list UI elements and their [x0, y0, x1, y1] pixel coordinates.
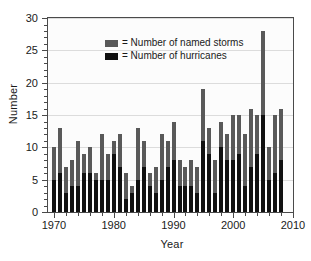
- x-tick-minor: [138, 213, 139, 216]
- bar-segment-named-storms: [207, 128, 211, 154]
- bar-segment-hurricanes: [58, 173, 62, 212]
- bar-segment-named-storms: [279, 109, 283, 161]
- x-tick-minor: [221, 213, 222, 216]
- bar-1993: [189, 160, 193, 212]
- bar-segment-named-storms: [58, 128, 62, 173]
- legend-swatch-named-storms: [105, 40, 118, 47]
- x-tick-major: [54, 213, 55, 218]
- x-tick-label-1990: 1990: [154, 220, 194, 231]
- bar-segment-named-storms: [243, 134, 247, 186]
- bar-1996: [207, 128, 211, 212]
- bar-1999: [225, 134, 229, 212]
- bar-segment-named-storms: [219, 122, 223, 148]
- bar-segment-named-storms: [64, 167, 68, 193]
- bar-1998: [219, 122, 223, 213]
- bar-segment-named-storms: [189, 160, 193, 186]
- bar-segment-hurricanes: [160, 180, 164, 212]
- x-tick-minor: [245, 213, 246, 216]
- legend-item-named-storms: = Number of named storms: [105, 38, 243, 48]
- bar-segment-named-storms: [267, 147, 271, 179]
- x-tick-minor: [162, 213, 163, 216]
- bar-segment-hurricanes: [243, 186, 247, 212]
- bar-segment-hurricanes: [118, 167, 122, 212]
- bar-segment-named-storms: [255, 115, 259, 154]
- bar-segment-hurricanes: [100, 180, 104, 212]
- bar-segment-named-storms: [88, 147, 92, 173]
- legend-label-named-storms: = Number of named storms: [122, 38, 243, 48]
- bar-1976: [88, 147, 92, 212]
- x-tick-major: [233, 213, 234, 218]
- bar-segment-named-storms: [201, 89, 205, 141]
- legend-swatch-hurricanes: [105, 53, 118, 60]
- x-tick-major: [293, 213, 294, 218]
- bar-segment-hurricanes: [213, 193, 217, 212]
- bar-1992: [183, 167, 187, 212]
- y-tick-label-30: 30: [26, 13, 38, 24]
- bar-segment-hurricanes: [267, 180, 271, 212]
- bar-1984: [136, 128, 140, 212]
- bar-segment-hurricanes: [178, 186, 182, 212]
- bar-segment-hurricanes: [273, 173, 277, 212]
- x-tick-minor: [185, 213, 186, 216]
- x-tick-minor: [269, 213, 270, 216]
- bar-segment-hurricanes: [195, 193, 199, 212]
- bar-segment-named-storms: [100, 134, 104, 179]
- bar-1990: [172, 122, 176, 213]
- bar-1980: [112, 141, 116, 212]
- x-tick-label-1970: 1970: [34, 220, 74, 231]
- bar-segment-named-storms: [183, 167, 187, 186]
- bar-segment-named-storms: [52, 147, 56, 179]
- x-tick-minor: [281, 213, 282, 216]
- x-axis-title: Year: [44, 238, 300, 250]
- x-axis-ticks: 19701980199020002010: [47, 213, 294, 237]
- bar-1991: [178, 160, 182, 212]
- x-tick-minor: [209, 213, 210, 216]
- bar-segment-named-storms: [172, 122, 176, 161]
- bar-segment-named-storms: [148, 173, 152, 186]
- bar-2007: [273, 115, 277, 212]
- bar-segment-hurricanes: [237, 154, 241, 212]
- bar-segment-hurricanes: [219, 147, 223, 212]
- plot-area: = Number of named storms = Number of hur…: [47, 17, 294, 213]
- bar-1981: [118, 134, 122, 212]
- bar-2003: [249, 109, 253, 213]
- bar-1970: [52, 147, 56, 212]
- bar-segment-named-storms: [82, 154, 86, 173]
- x-tick-major: [114, 213, 115, 218]
- hurricane-bar-chart: Number 051015202530 = Number of named st…: [0, 0, 311, 261]
- y-tick-label-10: 10: [26, 142, 38, 153]
- bar-segment-hurricanes: [154, 193, 158, 212]
- bar-2001: [237, 115, 241, 212]
- x-tick-label-2010: 2010: [273, 220, 311, 231]
- bar-1971: [58, 128, 62, 212]
- bar-segment-named-storms: [76, 141, 80, 186]
- x-tick-minor: [102, 213, 103, 216]
- bar-segment-named-storms: [213, 160, 217, 192]
- bar-segment-hurricanes: [207, 154, 211, 212]
- bar-1994: [195, 167, 199, 212]
- bar-segment-named-storms: [154, 167, 158, 193]
- bar-segment-named-storms: [112, 141, 116, 154]
- bar-segment-hurricanes: [225, 160, 229, 212]
- x-tick-minor: [257, 213, 258, 216]
- bar-segment-named-storms: [237, 115, 241, 154]
- bar-segment-hurricanes: [106, 180, 110, 212]
- bar-segment-hurricanes: [183, 186, 187, 212]
- bar-1987: [154, 167, 158, 212]
- bar-segment-hurricanes: [88, 173, 92, 212]
- bar-segment-named-storms: [231, 115, 235, 160]
- bar-2002: [243, 134, 247, 212]
- bar-1977: [94, 173, 98, 212]
- x-tick-minor: [126, 213, 127, 216]
- y-tick-label-25: 25: [26, 45, 38, 56]
- bar-segment-hurricanes: [261, 115, 265, 212]
- x-tick-label-2000: 2000: [213, 220, 253, 231]
- bar-segment-hurricanes: [189, 186, 193, 212]
- bar-segment-hurricanes: [249, 167, 253, 212]
- bar-segment-named-storms: [160, 134, 164, 179]
- bar-segment-named-storms: [124, 173, 128, 199]
- bar-1995: [201, 89, 205, 212]
- bar-1985: [142, 141, 146, 212]
- bar-1975: [82, 154, 86, 212]
- bar-segment-named-storms: [225, 134, 229, 160]
